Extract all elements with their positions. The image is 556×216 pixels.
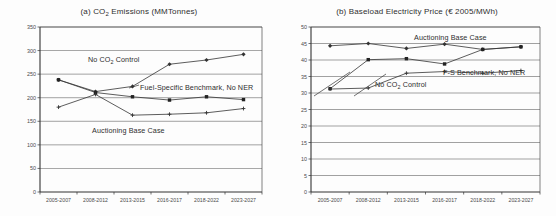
y-axis-tick-label: 5: [304, 173, 307, 179]
panel-a-annotation-fs-benchmark: Fuel-Specific Benchmark, No NER: [140, 83, 253, 92]
x-axis-tick-label: 2005-2007: [318, 197, 343, 203]
annotation-text-prefix: Auctioning Base Case: [92, 126, 165, 135]
data-point-marker: [241, 52, 245, 56]
data-point-marker: [242, 98, 245, 101]
x-axis-tick-label: 2013-2015: [120, 197, 145, 203]
annotation-text-subscript: 2: [110, 59, 113, 65]
y-axis-tick-label: 15: [301, 140, 307, 146]
y-axis-tick-label: 25: [301, 107, 307, 113]
x-axis-tick-label: 2016-2017: [157, 197, 182, 203]
annotation-text-prefix: Auctioning Base Case: [414, 33, 487, 42]
y-axis-tick-label: 30: [301, 90, 307, 96]
y-axis-tick-label: 20: [301, 123, 307, 129]
series-1: [328, 41, 523, 51]
data-point-marker: [366, 41, 370, 45]
y-axis-tick-label: 100: [27, 142, 36, 148]
x-axis-tick-label: 2008-2012: [356, 197, 381, 203]
y-axis-tick-label: 250: [27, 71, 36, 77]
y-axis-tick-label: 50: [30, 165, 36, 171]
y-axis-tick-label: 40: [301, 57, 307, 63]
y-axis-tick-label: 50: [301, 24, 307, 30]
data-point-marker: [205, 95, 208, 98]
y-axis-tick-label: 10: [301, 156, 307, 162]
annotation-text-suffix: Control: [114, 55, 140, 64]
data-point-marker: [443, 62, 446, 65]
series-3: [57, 93, 246, 118]
panel-b-annotation-auctioning-base-case: Auctioning Base Case: [414, 33, 487, 42]
annotation-text-subscript: 2: [397, 84, 400, 90]
data-point-marker: [328, 44, 332, 48]
panel-a-annotation-auctioning-base-case: Auctioning Base Case: [92, 126, 165, 135]
x-axis-tick-label: 2013-2015: [394, 197, 419, 203]
x-axis-tick-label: 2023-2027: [509, 197, 534, 203]
y-axis-tick-label: 350: [27, 24, 36, 30]
data-point-marker: [367, 58, 370, 61]
y-axis-tick-label: 300: [27, 48, 36, 54]
x-axis-tick-label: 2018-2022: [470, 197, 495, 203]
annotation-text-prefix: No CO: [375, 80, 397, 89]
x-axis-tick-label: 2023-2027: [231, 197, 256, 203]
data-point-marker: [442, 42, 446, 46]
data-point-marker: [481, 48, 484, 51]
figure-canvas: (a) CO2 Emissions (MMTonnes) 05010015020…: [0, 0, 556, 216]
annotation-text-prefix: F-S Benchmark, No NER: [443, 68, 525, 77]
x-axis-tick-label: 2018-2022: [194, 197, 219, 203]
data-point-marker: [404, 46, 408, 50]
data-point-marker: [131, 95, 134, 98]
panel-a-annotation-no-co2-control: No CO2 Control: [88, 55, 140, 64]
panel-b-annotation-no-co2-control: No CO2 Control: [375, 80, 427, 89]
annotation-text-prefix: No CO: [88, 55, 110, 64]
y-axis-tick-label: 35: [301, 74, 307, 80]
data-point-marker: [405, 57, 408, 60]
chart-panel-a: (a) CO2 Emissions (MMTonnes) 05010015020…: [0, 0, 278, 216]
annotation-leader-line: [314, 72, 350, 96]
x-axis-tick-label: 2005-2007: [46, 197, 71, 203]
panel-b-annotation-fs-benchmark: F-S Benchmark, No NER: [443, 68, 525, 77]
y-axis-tick-label: 0: [33, 189, 36, 195]
data-point-marker: [168, 98, 171, 101]
x-axis-tick-label: 2008-2012: [83, 197, 108, 203]
annotation-text-suffix: Control: [401, 80, 427, 89]
x-axis-tick-label: 2016-2017: [432, 197, 457, 203]
data-point-marker: [204, 58, 208, 62]
y-axis-tick-label: 0: [304, 189, 307, 195]
data-point-marker: [519, 45, 522, 48]
data-point-marker: [167, 62, 171, 66]
panel-a-svg: 0501001502002503003502005-20072008-20122…: [0, 0, 278, 216]
data-point-marker: [57, 78, 60, 81]
y-axis-tick-label: 200: [27, 95, 36, 101]
y-axis-tick-label: 150: [27, 118, 36, 124]
annotation-text-prefix: Fuel-Specific Benchmark, No NER: [140, 83, 253, 92]
y-axis-tick-label: 45: [301, 41, 307, 47]
panel-a-plot-area: 0501001502002503003502005-20072008-20122…: [0, 0, 278, 216]
